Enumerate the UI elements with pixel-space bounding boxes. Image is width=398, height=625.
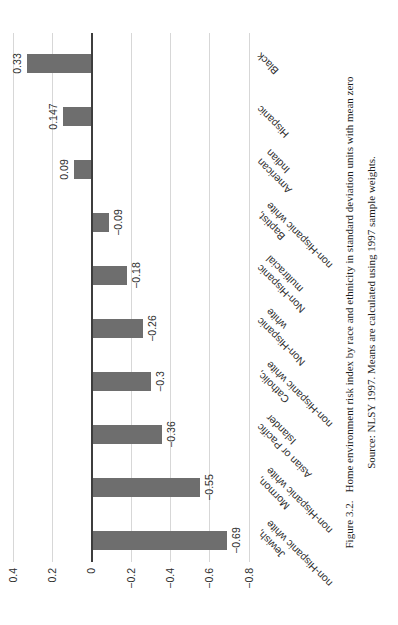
value-tick-label: 0.4: [7, 568, 20, 610]
bar-value-label: −0.26: [146, 297, 159, 361]
value-tick-label: −0.4: [164, 568, 177, 610]
figure-number-label: Figure 3.2.: [343, 501, 355, 549]
bar: [92, 478, 200, 497]
book-page: 0.40.20−0.2−0.4−0.6−0.8−0.69−0.55−0.36−0…: [0, 0, 398, 625]
bar-value-label: −0.69: [230, 509, 243, 573]
figure-caption-text: Home environment risk index by race and …: [343, 76, 355, 492]
bar: [92, 266, 127, 285]
bar-value-label: −0.09: [112, 191, 125, 255]
value-tick-label: 0.2: [46, 568, 59, 610]
rotated-figure: 0.40.20−0.2−0.4−0.6−0.8−0.69−0.55−0.36−0…: [0, 0, 398, 625]
bar-value-label: −0.36: [165, 403, 178, 467]
value-gridline: [249, 33, 250, 562]
bar-value-label: −0.18: [130, 244, 143, 308]
value-tick-label: −0.2: [125, 568, 138, 610]
bar-value-label: −0.55: [203, 456, 216, 520]
bar-chart: 0.40.20−0.2−0.4−0.6−0.8−0.69−0.55−0.36−0…: [0, 0, 398, 625]
bar: [92, 531, 228, 550]
figure-source-note: Source: NLSY 1997. Means are calculated …: [364, 0, 378, 625]
figure-caption-line: Figure 3.2.Home environment risk index b…: [342, 0, 356, 625]
bar: [92, 425, 163, 444]
value-gridline: [13, 33, 14, 562]
bar-value-label: 0.33: [11, 32, 24, 96]
bar: [92, 372, 151, 391]
bar: [92, 319, 143, 338]
value-axis-zero-line: [91, 33, 93, 562]
bar: [63, 107, 92, 126]
bar-value-label: 0.147: [47, 85, 60, 149]
figure-caption: Figure 3.2.Home environment risk index b…: [342, 0, 378, 625]
category-label-anchor: Black: [254, 60, 267, 232]
bar: [27, 54, 92, 73]
bar: [92, 213, 110, 232]
bar-value-label: 0.09: [58, 138, 71, 202]
value-tick-label: 0: [85, 568, 98, 610]
bar: [74, 160, 92, 179]
value-tick-label: −0.6: [203, 568, 216, 610]
